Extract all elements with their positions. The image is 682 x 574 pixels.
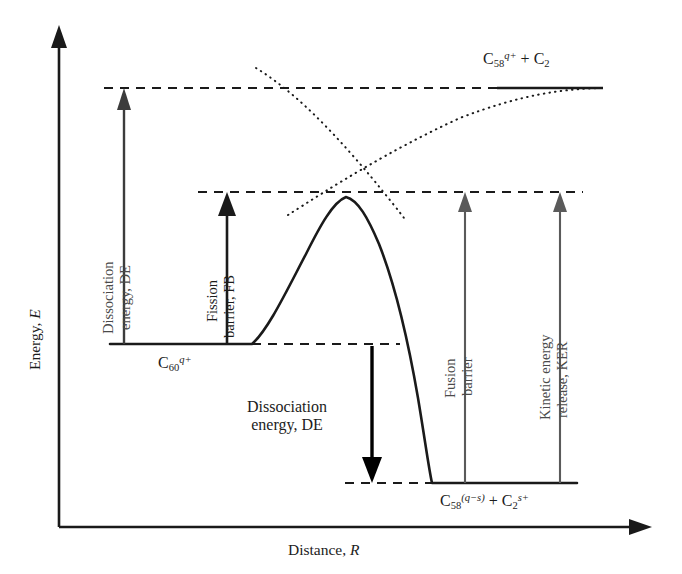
fusion-line1-text: Fusion bbox=[442, 359, 458, 399]
x-axis-label-text: Distance, bbox=[288, 541, 346, 558]
kinetic-energy-release-arrow bbox=[553, 192, 567, 483]
dissociation-energy-center-arrowhead bbox=[362, 457, 382, 483]
dotted-curve-ascending bbox=[288, 88, 603, 215]
products-charged-part1-sub: 58 bbox=[451, 500, 462, 511]
fusion-barrier-arrow bbox=[458, 192, 472, 483]
dissociation-energy-center-label: Dissociation energy, DE bbox=[217, 398, 357, 434]
fb-line2-text: barrier, FB bbox=[221, 275, 237, 338]
x-axis-arrowhead bbox=[629, 519, 652, 535]
products-neutral-part1-sup: q+ bbox=[504, 50, 516, 61]
state-label-reactant: C60q+ bbox=[158, 354, 192, 374]
x-axis-label-symbol: R bbox=[350, 541, 359, 558]
kinetic-energy-release-label-line1: Kinetic energy bbox=[537, 335, 553, 421]
fusion-barrier-label-line1: Fusion bbox=[442, 359, 458, 399]
de-left-line2-text: energy, DE bbox=[117, 265, 133, 330]
products-charged-part2-base: C bbox=[502, 492, 513, 509]
de-center-line1-text: Dissociation bbox=[217, 398, 357, 416]
solid-potential-curve bbox=[110, 197, 577, 483]
products-neutral-part1-sub: 58 bbox=[494, 58, 505, 69]
products-neutral-part1-base: C bbox=[483, 50, 494, 67]
ker-line2-text: release, KER bbox=[554, 342, 570, 419]
kinetic-energy-release-arrowhead bbox=[553, 192, 567, 212]
state-label-products-neutral: C58q+ + C2 bbox=[483, 50, 550, 70]
dotted-curve-descending bbox=[256, 68, 404, 218]
fission-barrier-label-line1: Fission bbox=[204, 280, 220, 322]
de-left-line1-text: Dissociation bbox=[100, 262, 116, 335]
kinetic-energy-release-label-line2: release, KER bbox=[554, 342, 570, 419]
de-center-line2-text: energy, DE bbox=[217, 416, 357, 434]
dissociation-energy-center-arrow bbox=[362, 346, 382, 483]
fission-barrier-arrowhead bbox=[218, 192, 236, 216]
products-charged-plus: + bbox=[489, 492, 498, 509]
products-neutral-plus: + bbox=[521, 50, 530, 67]
energy-diagram-figure: Energy, E Distance, R C58q+ + C2 C60q+ C… bbox=[0, 0, 682, 574]
dissociation-energy-left-arrowhead bbox=[117, 88, 131, 110]
reactant-sub: 60 bbox=[169, 362, 180, 373]
products-charged-part2-sup: s+ bbox=[518, 492, 529, 503]
products-neutral-part2-sub: 2 bbox=[544, 58, 549, 69]
fusion-line2-text: barrier bbox=[459, 357, 475, 396]
y-axis-label: Energy, E bbox=[26, 309, 43, 370]
fusion-barrier-label-line2: barrier bbox=[459, 357, 475, 396]
dotted-curves-group bbox=[256, 68, 603, 218]
y-axis-label-text: Energy, bbox=[26, 323, 43, 370]
products-neutral-part2-base: C bbox=[534, 50, 545, 67]
dissociation-energy-left-label-line2: energy, DE bbox=[117, 265, 133, 330]
axes-group bbox=[51, 25, 652, 535]
products-charged-part1-sup: (q−s) bbox=[461, 492, 485, 503]
y-axis-label-symbol: E bbox=[26, 309, 43, 318]
fission-barrier-label-line2: barrier, FB bbox=[221, 275, 237, 338]
fb-line1-text: Fission bbox=[204, 280, 220, 322]
x-axis-label: Distance, R bbox=[288, 541, 359, 558]
reactant-sup: q+ bbox=[179, 354, 191, 365]
ker-line1-text: Kinetic energy bbox=[537, 335, 553, 421]
state-label-products-charged: C58(q−s) + C2s+ bbox=[440, 492, 529, 512]
products-charged-part1-base: C bbox=[440, 492, 451, 509]
reactant-base: C bbox=[158, 354, 169, 371]
dissociation-energy-left-label-line1: Dissociation bbox=[100, 262, 116, 335]
fusion-barrier-arrowhead bbox=[458, 192, 472, 212]
y-axis-arrowhead bbox=[51, 25, 67, 48]
